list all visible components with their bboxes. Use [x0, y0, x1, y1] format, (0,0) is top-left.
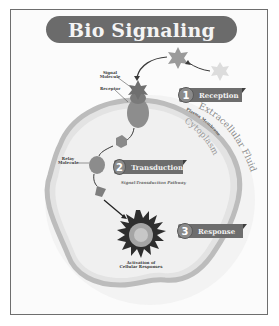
title-banner: Bio Signaling: [46, 16, 237, 43]
step-number: 2: [113, 159, 126, 175]
step-response: 3 Response: [178, 224, 243, 238]
page-title: Bio Signaling: [68, 19, 215, 41]
relay-molecule-oval: [89, 156, 105, 174]
response-core-inner: [134, 228, 148, 242]
step-transduction: 2 Transduction: [114, 160, 183, 174]
step-label: Transduction: [131, 163, 183, 172]
signal-molecule-label: Signal Molecule: [99, 71, 121, 80]
signal-star-2: [211, 62, 229, 81]
relay-molecule-label: Relay Molecule: [58, 157, 78, 166]
step-label: Response: [198, 227, 235, 236]
step-reception: 1 Reception: [179, 88, 242, 102]
activation-label: Activation of Cellular Responses: [118, 261, 164, 270]
step-number: 3: [177, 223, 193, 239]
pathway-label: Signal-Transduction Pathway: [121, 180, 186, 185]
receptor-label: Receptor: [100, 87, 120, 91]
step-number: 1: [178, 87, 194, 103]
step-label: Reception: [199, 91, 239, 100]
signal-star-1: [168, 47, 188, 69]
arrow-to-receptor: [137, 57, 167, 77]
arrow-head: [134, 76, 140, 81]
arrow-signal-incoming: [189, 63, 210, 71]
